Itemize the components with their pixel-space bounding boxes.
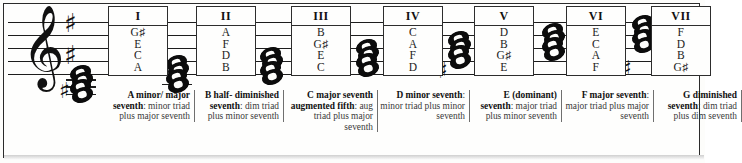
notehead-hole bbox=[639, 40, 649, 48]
chord-note-name: C bbox=[109, 50, 167, 62]
roman-numeral-box-iii[interactable]: IIIBG♯EC bbox=[291, 6, 351, 76]
chord-note-name: D bbox=[384, 62, 442, 74]
roman-numeral-label: VI bbox=[567, 7, 625, 23]
chord-note-name: E bbox=[567, 27, 625, 39]
chord-caption-i: A minor/ major seventh: minor triad plus… bbox=[103, 90, 195, 122]
chord-caption-vii: G diminished seventh: dim triad plus dim… bbox=[650, 90, 742, 122]
chord-caption-name: F major seventh bbox=[582, 90, 647, 100]
roman-numeral-box-ii[interactable]: IIAFDB bbox=[196, 6, 256, 76]
roman-numeral-box-v[interactable]: VDBG♯E bbox=[474, 6, 534, 76]
notehead-hole bbox=[173, 80, 183, 88]
roman-numeral-label: IV bbox=[384, 7, 442, 23]
chord-note-name: D bbox=[197, 50, 255, 62]
chord-note-name: C bbox=[384, 27, 442, 39]
notehead-hole bbox=[549, 48, 559, 56]
roman-numeral-label: II bbox=[197, 7, 255, 23]
roman-numeral-box-iv[interactable]: IVCAFD bbox=[383, 6, 443, 76]
chord-note-name: B bbox=[652, 50, 710, 62]
chord-note-name: G♯ bbox=[475, 50, 533, 62]
roman-numeral-box-vii[interactable]: VIIFDBG♯ bbox=[651, 6, 711, 76]
notehead-hole bbox=[363, 64, 373, 72]
roman-numeral-label: III bbox=[292, 7, 350, 23]
chord-note-name: F bbox=[567, 62, 625, 74]
chord-note-name: F bbox=[652, 27, 710, 39]
roman-numeral-label: I bbox=[109, 7, 167, 23]
chord-note-name: B bbox=[292, 27, 350, 39]
chord-caption-ii: B half- diminished seventh: dim triad pl… bbox=[192, 90, 284, 122]
chord-accidental-sharp-icon: ♯ bbox=[59, 80, 70, 102]
chord-note-list: ECAF bbox=[567, 26, 625, 75]
chord-note-name: E bbox=[292, 50, 350, 62]
chord-caption-iii: C major seventh augmented fifth: aug tri… bbox=[286, 90, 378, 132]
chord-note-name: G♯ bbox=[109, 27, 167, 39]
chord-note-name: D bbox=[475, 27, 533, 39]
chord-note-name: B bbox=[197, 62, 255, 74]
roman-numeral-box-i[interactable]: IG♯ECA bbox=[108, 6, 168, 76]
chord-note-list: G♯ECA bbox=[109, 26, 167, 75]
roman-numeral-label: VII bbox=[652, 7, 710, 23]
key-signature-sharp-icon-1: ♯ bbox=[64, 10, 77, 36]
notehead-hole bbox=[77, 90, 87, 98]
chord-note-name: A bbox=[109, 62, 167, 74]
chord-note-list: DBG♯E bbox=[475, 26, 533, 75]
chord-note-name: E bbox=[475, 62, 533, 74]
chord-note-name: F bbox=[384, 50, 442, 62]
chord-note-list: CAFD bbox=[384, 26, 442, 75]
treble-clef-icon: 𝄞 bbox=[22, 10, 65, 82]
chord-note-list: BG♯EC bbox=[292, 26, 350, 75]
key-signature-sharp-icon-2: ♯ bbox=[64, 42, 77, 68]
chord-note-list: AFDB bbox=[197, 26, 255, 75]
notehead-hole bbox=[267, 72, 277, 80]
chord-caption-vi: F major seventh: major triad plus major … bbox=[562, 90, 654, 122]
roman-numeral-box-vi[interactable]: VIECAF bbox=[566, 6, 626, 76]
chord-note-name: A bbox=[197, 27, 255, 39]
page-shadow bbox=[4, 155, 704, 160]
chord-note-name: A bbox=[567, 50, 625, 62]
chord-note-name: G♯ bbox=[652, 62, 710, 74]
chord-caption-v: E (dominant) seventh: major triad plus m… bbox=[470, 90, 562, 122]
roman-numeral-label: V bbox=[475, 7, 533, 23]
chord-note-name: C bbox=[292, 62, 350, 74]
notehead-hole bbox=[455, 56, 465, 64]
chord-note-list: FDBG♯ bbox=[652, 26, 710, 75]
chord-caption-iv: D minor seventh: minor triad plus minor … bbox=[378, 90, 470, 122]
chord-caption-name: D minor seventh bbox=[396, 90, 462, 100]
